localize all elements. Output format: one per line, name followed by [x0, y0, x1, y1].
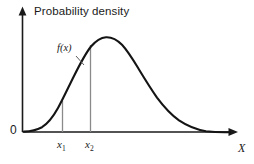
- y-axis-arrow-icon: [19, 7, 27, 16]
- x-tick-label-x2: x2: [85, 139, 94, 153]
- function-label: f(x): [57, 43, 72, 54]
- density-plot-svg: [0, 0, 254, 164]
- x-axis-label: X: [238, 142, 245, 154]
- y-axis-label: Probability density: [34, 6, 129, 18]
- origin-label: 0: [10, 124, 17, 136]
- probability-density-figure: Probability density 0 X f(x) x1 x2: [0, 0, 254, 164]
- x-tick-label-x2-subscript: 2: [90, 144, 94, 153]
- probability-density-curve: [24, 37, 230, 132]
- x-tick-label-x1-subscript: 1: [62, 144, 66, 153]
- x-tick-label-x1: x1: [57, 139, 66, 153]
